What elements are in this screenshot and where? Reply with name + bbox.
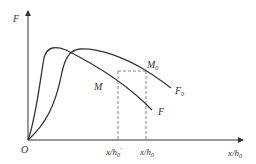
point-M-label: M [93,81,103,92]
y-axis-label: F [12,13,20,24]
point-M0-label: M0 [146,59,158,71]
curve-F [28,48,152,140]
force-displacement-diagram: F O M M0 F0 F x/h0' x/h0 x/h0 [0,0,256,164]
tick-label-x-h0: x/h0 [139,147,154,158]
x-axis-label: x/h0 [227,148,242,159]
tick-label-x-h0-prime: x/h0' [105,146,122,158]
origin-label: O [21,144,28,155]
curve-F0-label: F0 [174,85,184,97]
curve-F-label: F [157,106,165,117]
